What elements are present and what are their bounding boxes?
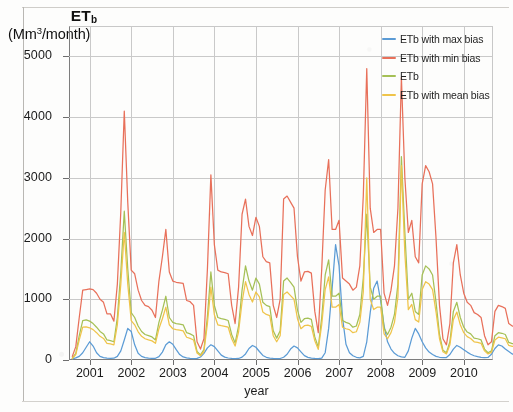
x-axis-tick-label: 2004 <box>201 366 229 380</box>
y-axis-tick-label: 2000 <box>24 231 52 245</box>
legend-swatch-icon <box>382 38 396 40</box>
y-axis-tick-label: 3000 <box>24 170 52 184</box>
x-axis-tick-label: 2001 <box>76 366 104 380</box>
y-axis-title-line1: ETb <box>8 6 138 25</box>
etb-timeseries-chart: ETb (Mm3/month) 010002000300040005000 20… <box>0 0 513 412</box>
x-axis-tick-labels: 2001200220032004200520062007200820092010 <box>69 364 493 384</box>
y-axis-tick-label: 5000 <box>24 48 52 62</box>
x-axis-tick-label: 2009 <box>408 366 436 380</box>
legend-swatch-icon <box>382 57 396 59</box>
legend-item-etb[interactable]: ETb <box>382 67 510 86</box>
chart-legend: ETb with max biasETb with min biasETbETb… <box>382 30 510 104</box>
legend-item-label: ETb with max bias <box>400 33 483 45</box>
x-axis-title: year <box>0 384 513 398</box>
x-axis-tick-label: 2007 <box>325 366 353 380</box>
x-axis-tick-label: 2003 <box>159 366 187 380</box>
y-axis-tick-label: 0 <box>45 352 52 366</box>
x-axis-tick-label: 2006 <box>284 366 312 380</box>
x-axis-tick-label: 2010 <box>450 366 478 380</box>
legend-item-label: ETb <box>400 70 419 82</box>
legend-item-label: ETb with mean bias <box>400 89 490 101</box>
legend-swatch-icon <box>382 75 396 77</box>
x-axis-tick-label: 2008 <box>367 366 395 380</box>
legend-swatch-icon <box>382 94 396 96</box>
x-axis-tick-label: 2002 <box>117 366 145 380</box>
y-axis-tick-label: 1000 <box>24 291 52 305</box>
legend-item-min-bias[interactable]: ETb with min bias <box>382 49 510 68</box>
legend-item-label: ETb with min bias <box>400 52 480 64</box>
x-axis-tick-label: 2005 <box>242 366 270 380</box>
y-axis-tick <box>63 360 69 361</box>
legend-item-mean-bias[interactable]: ETb with mean bias <box>382 86 510 105</box>
y-axis-tick-label: 4000 <box>24 109 52 123</box>
y-axis-tick-labels: 010002000300040005000 <box>0 26 62 360</box>
legend-item-max-bias[interactable]: ETb with max bias <box>382 30 510 49</box>
